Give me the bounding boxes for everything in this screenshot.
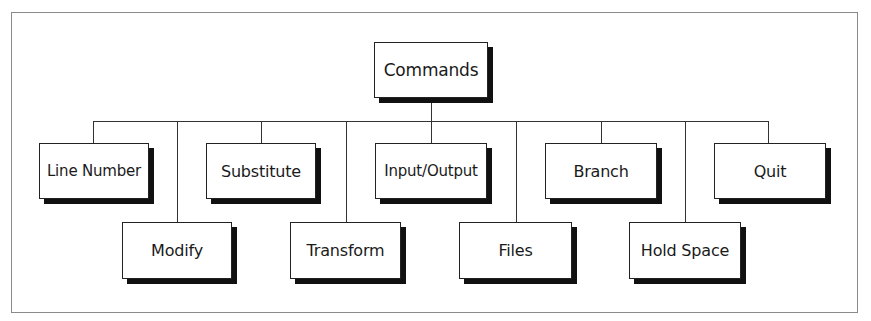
- connector-files: [516, 121, 517, 222]
- node-quit: Quit: [714, 143, 826, 199]
- node-hold-space: Hold Space: [629, 222, 741, 279]
- connector-branch: [601, 121, 602, 143]
- node-label: Hold Space: [629, 222, 741, 279]
- connector-line-number: [93, 121, 94, 143]
- connector-input-output: [431, 121, 432, 143]
- node-branch: Branch: [545, 143, 657, 199]
- node-files: Files: [459, 222, 572, 279]
- node-modify: Modify: [122, 222, 232, 279]
- connector-modify: [177, 121, 178, 222]
- node-label: Quit: [714, 143, 826, 199]
- node-substitute: Substitute: [206, 143, 316, 199]
- connector-substitute: [261, 121, 262, 143]
- node-label: Transform: [290, 222, 401, 279]
- node-label: Substitute: [206, 143, 316, 199]
- connector-transform: [346, 121, 347, 222]
- node-label: Files: [459, 222, 572, 279]
- node-label: Branch: [545, 143, 657, 199]
- node-input-output: Input/Output: [375, 143, 487, 199]
- connector-hold-space: [685, 121, 686, 222]
- node-label: Input/Output: [375, 143, 487, 199]
- node-label: Commands: [374, 42, 488, 98]
- node-line-number: Line Number: [39, 143, 149, 199]
- node-label: Line Number: [39, 143, 149, 199]
- connector-quit: [768, 121, 769, 143]
- node-label: Modify: [122, 222, 232, 279]
- node-transform: Transform: [290, 222, 401, 279]
- node-commands: Commands: [374, 42, 488, 98]
